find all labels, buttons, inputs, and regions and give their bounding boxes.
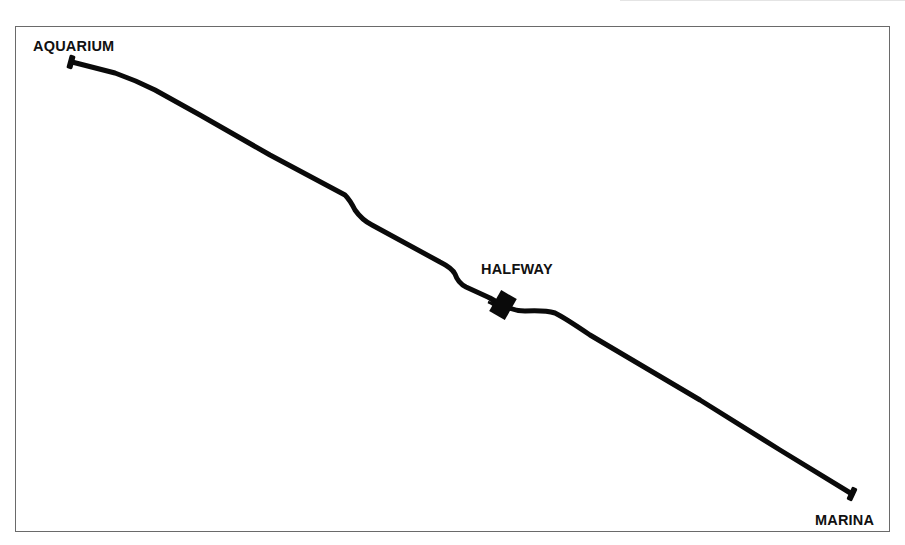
route-map [0,0,905,545]
label-aquarium: AQUARIUM [33,39,114,54]
route-line [72,62,852,494]
label-halfway: HALFWAY [481,262,553,277]
halfway-marker-icon [486,290,517,320]
label-marina: MARINA [815,513,874,528]
